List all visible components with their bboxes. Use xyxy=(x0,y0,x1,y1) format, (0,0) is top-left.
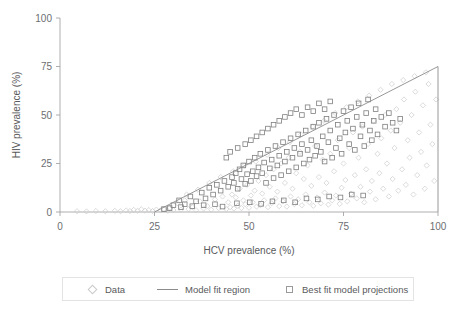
data-point-diamond xyxy=(362,200,367,205)
data-point-diamond xyxy=(226,200,231,205)
data-point-diamond xyxy=(341,161,346,166)
data-point-square xyxy=(292,146,297,151)
data-point-square xyxy=(224,155,229,160)
data-point-square xyxy=(283,115,288,120)
data-point-square xyxy=(383,124,388,129)
data-point-diamond xyxy=(418,149,423,154)
data-point-square xyxy=(235,146,240,151)
data-point-diamond xyxy=(422,186,427,191)
data-point-diamond xyxy=(262,198,267,203)
data-point-diamond xyxy=(326,202,331,207)
data-point-square xyxy=(288,111,293,116)
data-point-square xyxy=(300,142,305,147)
data-point-diamond xyxy=(401,77,406,82)
data-point-square xyxy=(294,165,299,170)
y-tick-label: 0 xyxy=(46,207,52,218)
data-point-square xyxy=(232,181,237,186)
data-point-square xyxy=(235,186,240,191)
data-point-square xyxy=(277,119,282,124)
data-point-square xyxy=(271,122,276,127)
x-tick-label: 100 xyxy=(430,221,447,232)
y-tick-label: 25 xyxy=(41,158,53,169)
data-point-square xyxy=(254,174,259,179)
data-point-diamond xyxy=(367,189,372,194)
data-point-diamond xyxy=(424,163,429,168)
legend-item-model-fit-region: Model fit region xyxy=(157,284,250,295)
data-point-diamond xyxy=(428,122,433,127)
data-point-diamond xyxy=(390,176,395,181)
data-point-square xyxy=(394,128,399,133)
x-tick-label: 50 xyxy=(243,221,255,232)
data-point-diamond xyxy=(386,194,391,199)
data-point-diamond xyxy=(339,185,344,190)
data-point-diamond xyxy=(316,174,321,179)
data-point-diamond xyxy=(331,169,336,174)
data-point-diamond xyxy=(246,205,251,210)
data-point-square xyxy=(266,148,271,153)
data-point-diamond xyxy=(417,130,422,135)
data-point-diamond xyxy=(411,192,416,197)
data-point-square xyxy=(285,150,290,155)
data-point-square xyxy=(249,179,254,184)
data-point-diamond xyxy=(369,178,374,183)
data-point-square xyxy=(222,179,227,184)
data-point-square xyxy=(305,148,310,153)
data-point-square xyxy=(322,107,327,112)
data-point-diamond xyxy=(377,171,382,176)
data-point-square xyxy=(215,183,220,188)
data-point-square xyxy=(281,140,286,145)
y-axis-title: HIV prevalence (%) xyxy=(11,72,22,159)
y-tick-label: 75 xyxy=(41,61,53,72)
data-point-square xyxy=(294,107,299,112)
data-point-diamond xyxy=(364,167,369,172)
square-icon xyxy=(286,286,293,293)
series-diamond xyxy=(74,70,438,214)
chart-figure: 02550751000255075100HCV prevalence (%)HI… xyxy=(0,0,476,318)
data-point-diamond xyxy=(401,97,406,102)
data-point-diamond xyxy=(275,189,280,194)
data-point-diamond xyxy=(248,193,253,198)
data-point-square xyxy=(254,134,259,139)
data-point-square xyxy=(343,130,348,135)
data-point-diamond xyxy=(337,201,342,206)
data-point-diamond xyxy=(413,89,418,94)
x-tick-label: 25 xyxy=(149,221,161,232)
data-point-diamond xyxy=(358,184,363,189)
data-point-square xyxy=(264,181,269,186)
data-point-diamond xyxy=(301,176,306,181)
data-point-square xyxy=(328,128,333,133)
data-point-diamond xyxy=(209,207,214,212)
data-point-diamond xyxy=(237,186,242,191)
data-point-square xyxy=(336,122,341,127)
data-point-diamond xyxy=(288,194,293,199)
data-point-square xyxy=(298,152,303,157)
data-point-square xyxy=(211,192,216,197)
data-point-square xyxy=(207,185,212,190)
data-point-square xyxy=(361,193,366,198)
data-point-diamond xyxy=(407,155,412,160)
data-point-diamond xyxy=(212,197,217,202)
data-point-square xyxy=(235,201,240,206)
data-point-square xyxy=(286,169,291,174)
data-point-diamond xyxy=(93,208,98,213)
legend-label-model-fit-region: Model fit region xyxy=(185,284,250,295)
y-tick-label: 50 xyxy=(41,110,53,121)
data-point-diamond xyxy=(324,180,329,185)
data-point-diamond xyxy=(394,107,399,112)
data-point-square xyxy=(266,126,271,131)
data-point-square xyxy=(345,119,350,124)
data-point-square xyxy=(262,160,267,165)
data-point-square xyxy=(315,144,320,149)
data-point-diamond xyxy=(290,186,295,191)
diamond-icon xyxy=(88,284,98,294)
data-point-square xyxy=(271,176,276,181)
data-point-square xyxy=(307,157,312,162)
data-point-diamond xyxy=(378,87,383,92)
series-square xyxy=(162,97,403,211)
data-point-square xyxy=(368,128,373,133)
data-point-diamond xyxy=(84,209,89,214)
data-point-diamond xyxy=(409,112,414,117)
data-point-diamond xyxy=(345,199,350,204)
data-point-diamond xyxy=(299,203,304,208)
data-point-square xyxy=(375,132,380,137)
